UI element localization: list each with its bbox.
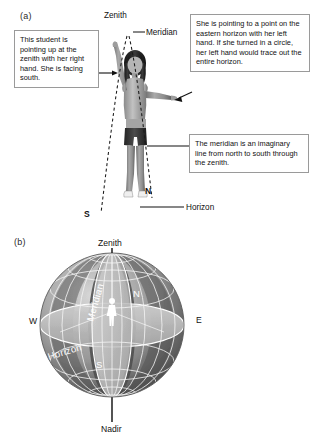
label-south-b: S [96, 359, 102, 370]
label-nadir-b: Nadir [101, 424, 122, 434]
sphere-inner [40, 249, 184, 401]
label-zenith-b: Zenith [98, 238, 122, 248]
label-west-b: W [29, 316, 37, 326]
label-east-b: E [196, 315, 202, 325]
panel-b-sphere: Meridian Horizon S N [0, 0, 314, 443]
figure-celestial-sphere: (a) [0, 0, 314, 443]
label-north-b: N [133, 288, 140, 299]
